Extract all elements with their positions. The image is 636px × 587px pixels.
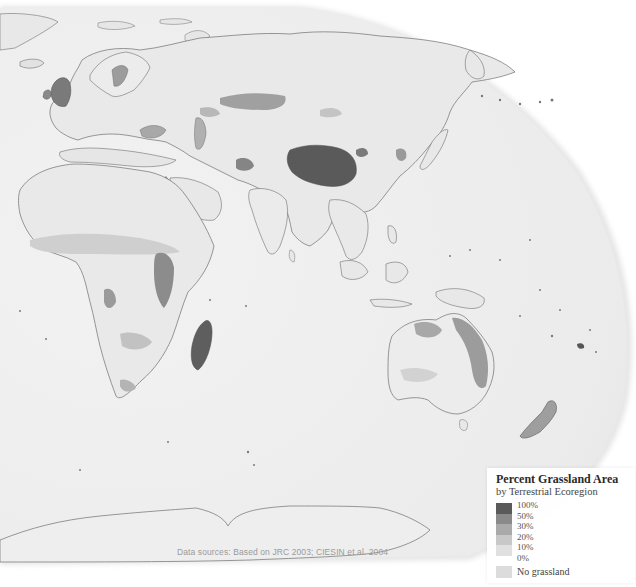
swatch-20 (496, 535, 512, 546)
swatch-50 (496, 514, 512, 525)
legend: Percent Grassland Area by Terrestrial Ec… (487, 468, 635, 583)
swatch-30 (496, 524, 512, 535)
legend-stop-0: 0% (517, 553, 529, 563)
legend-title: Percent Grassland Area (496, 472, 618, 487)
swatch-no-grassland (496, 566, 512, 578)
legend-stop-20: 20% (517, 532, 534, 542)
legend-stop-30: 30% (517, 521, 534, 531)
data-source-credit: Data sources: Based on JRC 2003; CIESIN … (177, 547, 388, 557)
swatch-10 (496, 545, 512, 556)
legend-no-grassland: No grassland (517, 566, 570, 577)
swatch-100 (496, 503, 512, 514)
legend-stop-100: 100% (517, 500, 538, 510)
legend-subtitle: by Terrestrial Ecoregion (496, 486, 598, 497)
legend-stop-10: 10% (517, 542, 534, 552)
legend-swatches (496, 503, 512, 556)
legend-stop-50: 50% (517, 511, 534, 521)
